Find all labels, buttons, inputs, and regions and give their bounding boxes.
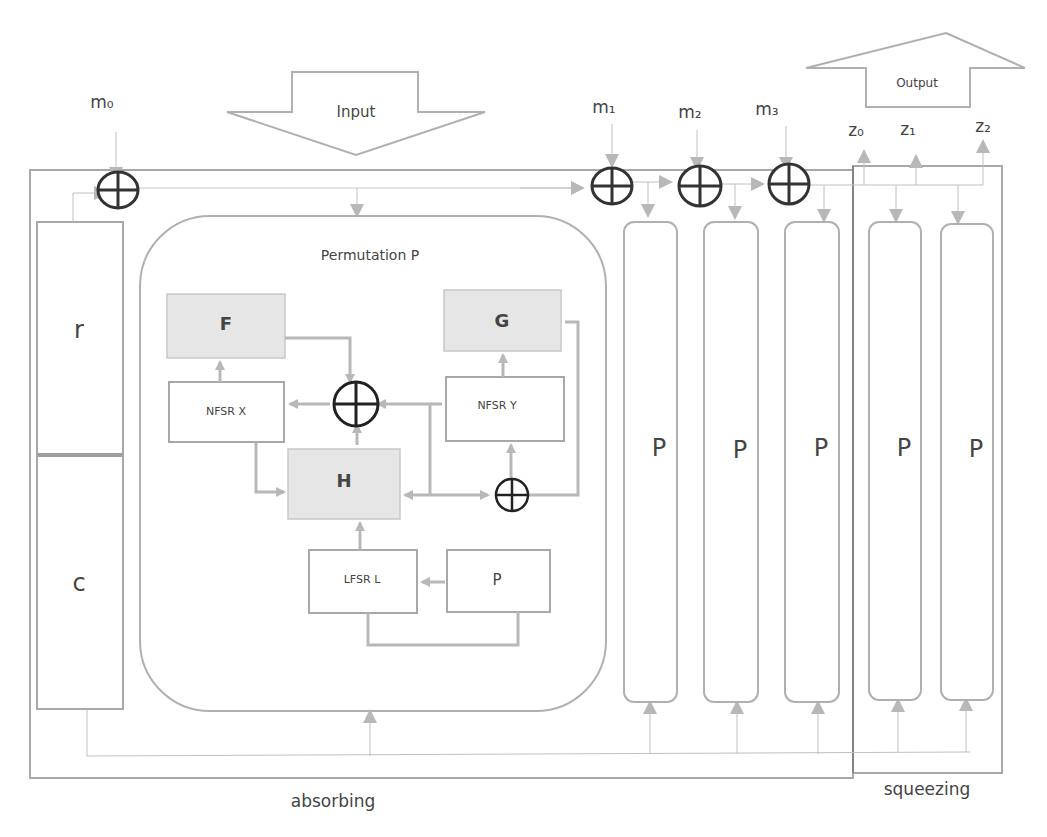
xor-m1: [592, 168, 632, 204]
xor-m0: [98, 172, 138, 208]
absorb-p2-label: P: [733, 436, 747, 464]
block-h-label: H: [336, 470, 351, 491]
output-z0: z₀: [848, 120, 864, 140]
squeezing-phase-label: squeezing: [884, 779, 971, 799]
squeeze-p2-label: P: [969, 435, 983, 463]
squeeze-permutation-1: [869, 222, 921, 700]
message-m1: m₁: [592, 97, 615, 117]
message-m0: m₀: [90, 92, 113, 112]
output-z2: z₂: [975, 116, 991, 136]
xor-m3: [769, 164, 809, 204]
message-m3: m₃: [755, 99, 778, 119]
squeeze-permutation-2: [941, 224, 993, 700]
absorb-permutation-3: [785, 222, 839, 702]
absorb-p1-label: P: [652, 434, 666, 462]
state-register: [37, 222, 123, 709]
xor-inner-large: [334, 382, 378, 426]
message-m2: m₂: [678, 102, 701, 122]
lfsr-l-label: LFSR L: [344, 573, 381, 586]
p-inner-label: P: [492, 571, 501, 589]
nfsr-x-label: NFSR X: [206, 405, 246, 418]
permutation-title: Permutation P: [321, 247, 419, 263]
xor-inner-small: [496, 479, 528, 511]
absorb-p3-label: P: [814, 434, 828, 462]
nfsr-y-label: NFSR Y: [477, 399, 516, 412]
block-g-label: G: [495, 310, 510, 331]
capacity-label: c: [72, 569, 85, 597]
output-z1: z₁: [900, 119, 916, 139]
absorbing-phase-label: absorbing: [291, 791, 376, 811]
output-arrow: [806, 33, 1025, 107]
input-label: Input: [337, 103, 376, 121]
xor-m2: [679, 166, 721, 206]
absorb-permutation-2: [704, 222, 758, 702]
sponge-diagram: [0, 0, 1047, 837]
squeeze-p1-label: P: [897, 434, 911, 462]
output-label: Output: [896, 76, 938, 90]
rate-label: r: [74, 316, 84, 344]
absorb-permutation-1: [624, 222, 677, 702]
block-f-label: F: [220, 313, 232, 334]
